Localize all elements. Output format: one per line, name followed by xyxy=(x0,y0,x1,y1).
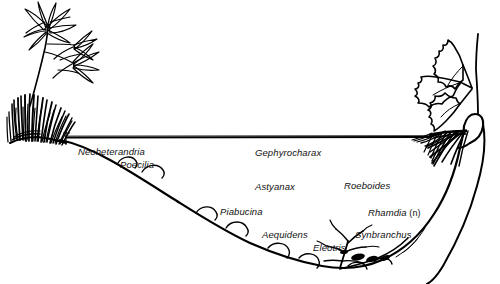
taxon-name: Piabucina xyxy=(220,206,263,217)
taxon-name: Roeboides xyxy=(344,180,390,191)
taxon-label-piabucina: Piabucina xyxy=(220,207,263,217)
taxon-name: Neoheterandria xyxy=(78,146,145,157)
taxon-name: Poecilia xyxy=(120,159,154,170)
taxon-name: Astyanax xyxy=(255,181,295,192)
taxon-label-poecilia: Poecilia xyxy=(120,160,154,170)
taxon-name: Eleotris xyxy=(313,242,345,253)
taxon-name: Gephyrocharax xyxy=(255,147,321,158)
taxon-label-aequidens: Aequidens xyxy=(262,230,308,240)
taxon-label-astyanax: Astyanax xyxy=(255,182,295,192)
taxon-label-synbranchus: Synbranchus xyxy=(355,230,412,240)
taxon-label-roeboides: Roeboides xyxy=(344,181,390,191)
taxon-label-neoheterandria: Neoheterandria xyxy=(78,147,145,157)
taxon-name: Rhamdia xyxy=(368,207,407,218)
taxon-label-eleotris: Eleotris xyxy=(313,243,345,253)
taxon-label-rhamdia: Rhamdia (n) xyxy=(368,208,421,218)
taxon-name: Synbranchus xyxy=(355,229,412,240)
taxon-qualifier: (n) xyxy=(407,208,421,218)
stream-scene-drawing xyxy=(0,0,500,284)
taxon-name: Aequidens xyxy=(262,229,308,240)
taxon-label-gephyrocharax: Gephyrocharax xyxy=(255,148,321,158)
stream-cross-section-figure: Neoheterandria Poecilia Gephyrocharax As… xyxy=(0,0,500,284)
